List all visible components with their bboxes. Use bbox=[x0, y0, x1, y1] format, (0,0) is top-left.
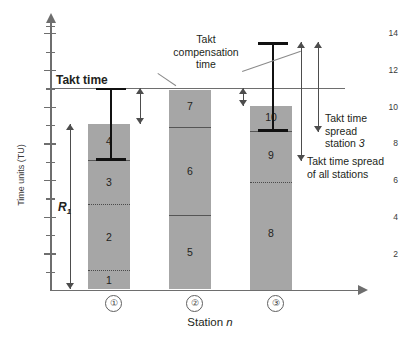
y-tick-1 bbox=[46, 272, 55, 273]
takt-compensation-callout: Takt compensation time bbox=[157, 33, 255, 71]
r1-label-base: R bbox=[58, 200, 67, 214]
y-axis-line bbox=[50, 22, 52, 290]
y-tick-5 bbox=[46, 198, 55, 199]
ibeam-1-stem bbox=[110, 88, 113, 161]
takt-compensation-line-2: compensation bbox=[157, 46, 255, 59]
bar-2-segment-2: 6 bbox=[169, 128, 211, 216]
y-tick-label-12: 12 bbox=[374, 66, 398, 74]
ibeam-marker-station-3 bbox=[258, 42, 288, 132]
y-tick-label-10: 10 bbox=[374, 103, 398, 111]
spread-all-head-down bbox=[297, 155, 305, 161]
y-tick-8 bbox=[44, 143, 56, 144]
x-axis-title: Station n bbox=[120, 316, 300, 328]
bar-2-segment-3: 7 bbox=[169, 88, 211, 128]
spread-station-3-number: 3 bbox=[359, 137, 365, 149]
r1-arrow-head-down bbox=[66, 283, 74, 289]
bar-2-segment-2-label: 6 bbox=[169, 165, 211, 177]
y-tick-label-14: 14 bbox=[374, 29, 398, 37]
y-tick-2 bbox=[44, 253, 56, 254]
x-axis-arrowhead bbox=[358, 285, 368, 295]
spread-station-3-prefix: station bbox=[325, 137, 359, 149]
spread-station-3-head-down bbox=[314, 126, 322, 132]
bar-2-segment-3-label: 7 bbox=[169, 100, 211, 112]
bar-1-segment-1: 1 bbox=[88, 271, 130, 289]
takt-compensation-line-1: Takt bbox=[157, 33, 255, 46]
r1-label: R1 bbox=[58, 200, 71, 216]
r1-label-subscript: 1 bbox=[67, 207, 71, 216]
spread-station-3-shaft bbox=[318, 42, 319, 132]
station-marker-2: ② bbox=[186, 295, 203, 312]
ibeam-3-stem bbox=[272, 42, 275, 132]
y-tick-3 bbox=[46, 235, 55, 236]
station-marker-1: ① bbox=[105, 295, 122, 312]
y-axis-title: Time units (TU) bbox=[16, 130, 26, 220]
takt-time-spread-all-stations-arrow bbox=[297, 42, 306, 161]
takt-time-spread-all-stations-label: Takt time spread of all stations bbox=[307, 155, 397, 180]
spread-all-line-1: Takt time spread bbox=[307, 155, 397, 168]
bar-1-segment-3-label: 3 bbox=[88, 176, 130, 188]
x-axis-title-italic: n bbox=[226, 316, 232, 328]
bar-1-segment-1-label: 1 bbox=[88, 274, 130, 286]
y-tick-9 bbox=[46, 125, 55, 126]
x-axis-title-prefix: Station bbox=[187, 316, 226, 328]
ibeam-1-bottom-cap bbox=[96, 158, 126, 161]
spread-station-3-line-1: Takt time spread bbox=[325, 112, 399, 137]
compensation-arrow-1-head-down bbox=[136, 118, 144, 124]
ibeam-3-bottom-cap bbox=[258, 129, 288, 132]
y-tick-12 bbox=[44, 70, 56, 71]
spread-all-line-2: of all stations bbox=[307, 168, 397, 181]
takt-compensation-arrow-station-1 bbox=[136, 88, 145, 125]
takt-compensation-arrow-station-3 bbox=[239, 88, 248, 106]
y-tick-10 bbox=[44, 107, 56, 108]
bar-1-segment-3: 3 bbox=[88, 161, 130, 205]
compensation-leader-line-left bbox=[157, 73, 176, 86]
bar-3-segment-1-label: 8 bbox=[250, 227, 292, 239]
y-tick-label-4: 4 bbox=[374, 213, 398, 221]
y-tick-label-2: 2 bbox=[374, 250, 398, 258]
bar-2-segment-1-label: 5 bbox=[169, 246, 211, 258]
spread-station-3-line-2: station 3 bbox=[325, 137, 399, 150]
bar-1-segment-2: 2 bbox=[88, 205, 130, 271]
y-axis-arrowhead bbox=[46, 13, 56, 23]
bar-3-segment-2-label: 9 bbox=[250, 149, 292, 161]
bar-2-segment-1: 5 bbox=[169, 216, 211, 289]
y-tick-4 bbox=[44, 217, 56, 218]
spread-all-shaft bbox=[301, 42, 302, 161]
ibeam-marker-station-1 bbox=[96, 88, 126, 161]
y-tick-7 bbox=[46, 162, 55, 163]
bar-3-segment-2: 9 bbox=[250, 132, 292, 183]
station-marker-3: ③ bbox=[267, 295, 284, 312]
y-tick-13 bbox=[46, 52, 55, 53]
bar-1-segment-2-label: 2 bbox=[88, 231, 130, 243]
y-tick-15 bbox=[46, 26, 55, 27]
compensation-arrow-3-head-down bbox=[239, 100, 247, 106]
y-tick-6 bbox=[44, 180, 56, 181]
takt-time-spread-station-3-arrow bbox=[314, 42, 323, 132]
bar-station-2: 5 6 7 bbox=[169, 90, 211, 290]
x-axis-line bbox=[50, 290, 362, 292]
takt-time-label: Takt time bbox=[56, 73, 108, 87]
takt-time-spread-station-3-label: Takt time spread station 3 bbox=[325, 112, 399, 150]
takt-compensation-line-3: time bbox=[157, 58, 255, 71]
bar-3-segment-1: 8 bbox=[250, 183, 292, 289]
y-tick-14 bbox=[44, 33, 56, 34]
bar-station-3: 8 9 10 bbox=[250, 106, 292, 290]
